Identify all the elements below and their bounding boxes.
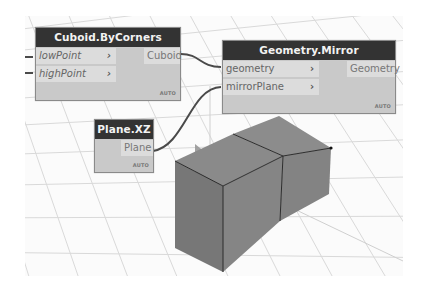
chevron-right-icon: › bbox=[310, 61, 314, 77]
port-row-highpoint: highPoint › bbox=[36, 65, 180, 83]
port-row-lowpoint: lowPoint › Cuboid bbox=[36, 47, 180, 65]
input-port-lowpoint[interactable]: lowPoint › bbox=[36, 48, 116, 64]
port-row-plane: Plane bbox=[95, 139, 153, 157]
port-row-geometry: geometry › Geometry bbox=[223, 60, 395, 78]
lacing-label[interactable]: AUTO bbox=[375, 103, 391, 109]
input-port-mirrorplane[interactable]: mirrorPlane › bbox=[223, 79, 319, 95]
node-title: Cuboid.ByCorners bbox=[36, 28, 180, 47]
port-label: Cuboid bbox=[147, 50, 182, 61]
node-title: Plane.XZ bbox=[95, 120, 153, 139]
node-body: geometry › Geometry mirrorPlane › AUTO bbox=[223, 60, 395, 113]
lacing-label[interactable]: AUTO bbox=[160, 90, 176, 96]
node-body: lowPoint › Cuboid highPoint › AUTO bbox=[36, 47, 180, 100]
input-port-highpoint[interactable]: highPoint › bbox=[36, 66, 116, 82]
port-label: mirrorPlane bbox=[226, 81, 284, 92]
node-geometry-mirror[interactable]: Geometry.Mirror geometry › Geometry mirr… bbox=[222, 40, 396, 114]
node-title: Geometry.Mirror bbox=[223, 41, 395, 60]
port-label: Plane bbox=[124, 142, 151, 153]
port-label: highPoint bbox=[39, 68, 86, 79]
output-port-cuboid[interactable]: Cuboid bbox=[144, 48, 180, 64]
mirrored-cuboids bbox=[175, 116, 333, 272]
chevron-right-icon: › bbox=[107, 66, 111, 82]
chevron-right-icon: › bbox=[310, 79, 314, 95]
output-port-plane[interactable]: Plane bbox=[121, 140, 153, 156]
port-label: lowPoint bbox=[39, 50, 81, 61]
input-port-geometry[interactable]: geometry › bbox=[223, 61, 319, 77]
port-label: geometry bbox=[226, 63, 274, 74]
port-label: Geometry bbox=[350, 63, 400, 74]
chevron-right-icon: › bbox=[107, 48, 111, 64]
lacing-label[interactable]: AUTO bbox=[133, 162, 149, 168]
port-row-mirrorplane: mirrorPlane › bbox=[223, 78, 395, 96]
node-plane-xz[interactable]: Plane.XZ Plane AUTO bbox=[94, 119, 154, 173]
node-body: Plane AUTO bbox=[95, 139, 153, 172]
node-cuboid-by-corners[interactable]: Cuboid.ByCorners lowPoint › Cuboid highP… bbox=[35, 27, 181, 101]
output-port-geometry[interactable]: Geometry bbox=[347, 61, 395, 77]
